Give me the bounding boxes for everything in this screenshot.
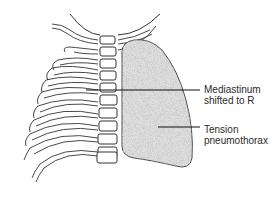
- vertebrae: [97, 36, 117, 163]
- label-mediastinum-line1: Mediastinum: [204, 84, 261, 95]
- label-mediastinum-shifted: Mediastinum shifted to R: [204, 84, 261, 106]
- label-tension-line1: Tension: [204, 124, 268, 135]
- ribs: [24, 24, 98, 182]
- label-tension-line2: pneumothorax: [204, 135, 268, 146]
- lung-tension-pneumothorax: [122, 40, 192, 167]
- label-mediastinum-line2: shifted to R: [204, 95, 261, 106]
- label-tension-pneumothorax: Tension pneumothorax: [204, 124, 268, 146]
